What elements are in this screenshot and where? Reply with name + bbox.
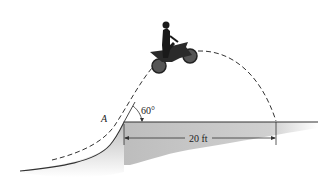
- angle-label: 60°: [141, 105, 155, 116]
- ground: [20, 122, 318, 177]
- motorcycle-rider: [150, 22, 197, 74]
- distance-label: 20 ft: [189, 133, 208, 144]
- point-label: A: [100, 113, 108, 124]
- diagram-canvas: A 60° 20 ft: [0, 0, 336, 188]
- trajectory-arc: [198, 51, 276, 121]
